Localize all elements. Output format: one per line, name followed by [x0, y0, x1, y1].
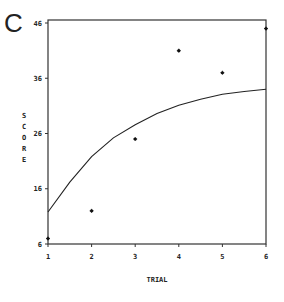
data-point [133, 137, 137, 141]
y-axis-label: SCORE [22, 112, 27, 164]
y-tick-label: 46 [34, 20, 42, 28]
plot-border [48, 20, 266, 244]
x-tick-label: 3 [133, 253, 137, 261]
y-axis-label-char: E [22, 156, 26, 164]
fitted-curve [48, 89, 266, 212]
x-tick-label: 4 [177, 253, 181, 261]
y-axis: 616263646 [34, 20, 48, 249]
x-tick-label: 2 [89, 253, 93, 261]
x-tick-label: 1 [46, 253, 50, 261]
x-axis-label: TRIAL [146, 276, 167, 284]
y-axis-label-char: S [22, 112, 26, 120]
y-tick-label: 36 [34, 75, 42, 83]
y-tick-label: 26 [34, 130, 42, 138]
x-tick-label: 5 [220, 253, 224, 261]
x-tick-label: 6 [264, 253, 268, 261]
data-point [264, 27, 268, 31]
y-axis-label-char: O [22, 134, 26, 142]
data-point [220, 71, 224, 75]
data-point [177, 49, 181, 53]
x-axis: 123456 [46, 244, 268, 261]
y-axis-label-char: R [22, 145, 27, 153]
scatter-chart: 616263646 123456 SCORE TRIAL [0, 0, 284, 302]
y-tick-label: 6 [38, 241, 42, 249]
plot-frame [48, 20, 266, 244]
data-point [46, 236, 50, 240]
y-tick-label: 16 [34, 185, 42, 193]
data-points [46, 27, 268, 241]
data-point [90, 209, 94, 213]
y-axis-label-char: C [22, 123, 26, 131]
